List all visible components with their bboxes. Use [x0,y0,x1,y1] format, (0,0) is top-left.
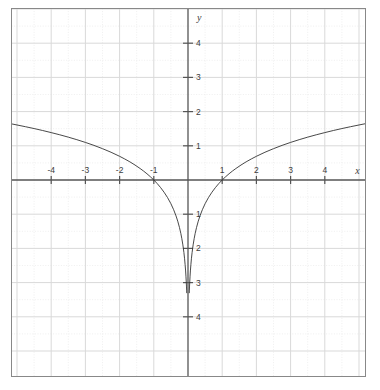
y-tick-label: 2 [196,243,201,253]
x-axis-label: x [354,165,360,176]
x-tick-label: -1 [150,165,158,175]
x-tick-label: 2 [254,165,259,175]
graph-figure: -4-3-2-1123443211234xy [0,0,380,390]
x-tick-label: -2 [116,165,124,175]
plot-background [0,0,380,390]
y-tick-label: 3 [196,72,201,82]
y-axis-label: y [196,12,202,23]
y-tick-label: 1 [196,141,201,151]
function-plot: -4-3-2-1123443211234xy [0,0,380,390]
x-tick-label: 4 [322,165,327,175]
x-tick-label: -3 [82,165,90,175]
y-tick-label: 2 [196,107,201,117]
x-tick-label: 1 [220,165,225,175]
y-tick-label: 4 [196,38,201,48]
y-tick-label: 4 [196,312,201,322]
y-tick-label: 3 [196,278,201,288]
x-tick-label: -4 [47,165,55,175]
x-tick-label: 3 [288,165,293,175]
